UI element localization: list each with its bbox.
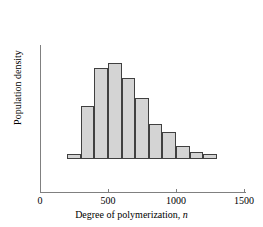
x-axis-tick-label-2: 1000: [166, 195, 186, 207]
histogram-bar: [149, 124, 163, 159]
histogram-bar: [108, 63, 122, 159]
histogram-figure: 0 500 1000 1500 Degree of polymerization…: [0, 0, 263, 227]
x-axis-title-text: Degree of polymerization,: [75, 209, 183, 220]
y-axis-title: Population density: [12, 23, 23, 153]
x-axis-tick-label-3: 1500: [234, 195, 254, 207]
histogram-bar: [122, 78, 136, 159]
histogram-bar: [81, 106, 95, 159]
histogram-bar: [190, 152, 204, 159]
histogram-bar: [203, 154, 217, 159]
x-axis-title: Degree of polymerization, n: [0, 209, 263, 221]
x-axis-tick-label-0: 0: [38, 195, 43, 207]
histogram-bar: [162, 132, 176, 159]
bar-series: [0, 0, 263, 193]
histogram-bar: [94, 68, 108, 159]
x-axis-tick-label-1: 500: [101, 195, 116, 207]
histogram-bar: [176, 146, 190, 159]
histogram-bar: [67, 154, 81, 159]
histogram-bar: [135, 98, 149, 159]
x-axis-title-variable: n: [183, 209, 188, 220]
plot-area: 0 500 1000 1500 Degree of polymerization…: [0, 0, 263, 227]
